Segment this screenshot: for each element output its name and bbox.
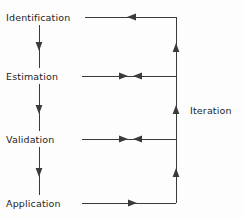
connector-application-group (82, 200, 176, 207)
stage-label-validation: Validation (6, 134, 54, 145)
arrowhead-right-validation (119, 136, 128, 143)
arrowhead-left-validation (133, 136, 142, 143)
stage-label-estimation: Estimation (6, 71, 58, 82)
arrowhead-down-to-estimation (36, 42, 43, 51)
arrowhead-left-identification (127, 14, 136, 21)
arrowhead-down-to-validation (36, 105, 43, 114)
arrowhead-left-estimation (133, 73, 142, 80)
arrowhead-up-iteration-middle (173, 105, 180, 114)
stage-label-identification: Identification (6, 12, 70, 23)
arrowhead-up-iteration-lower (173, 168, 180, 177)
connector-validation-group (82, 136, 176, 143)
diagram-canvas: Identification Estimation Validation App… (0, 0, 243, 218)
label-iteration: Iteration (190, 105, 232, 116)
arrowhead-down-to-application (36, 168, 43, 177)
stage-label-application: Application (6, 198, 61, 209)
arrowhead-up-iteration-upper (173, 43, 180, 52)
arrowhead-right-application (128, 200, 137, 207)
connector-identification-group (85, 14, 176, 21)
connector-estimation-group (82, 73, 176, 80)
arrowhead-right-estimation (119, 73, 128, 80)
